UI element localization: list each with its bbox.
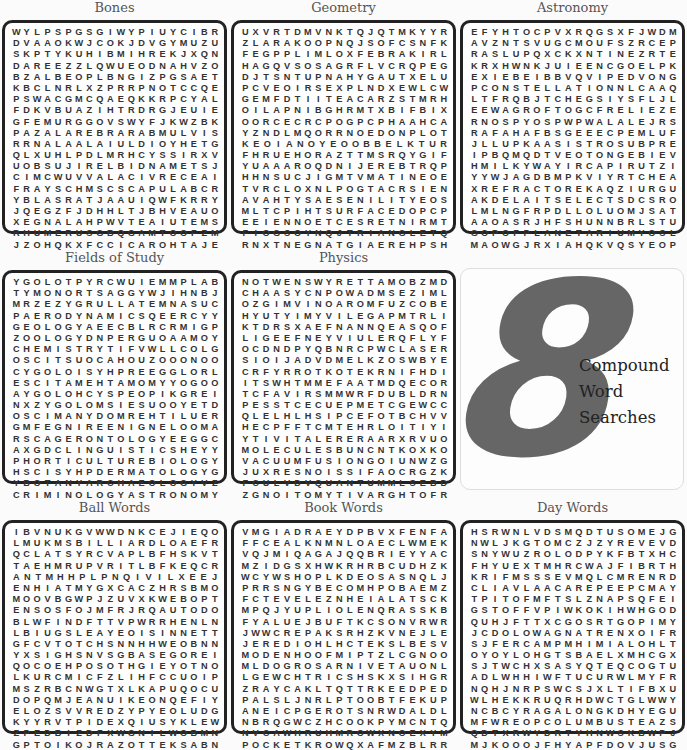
grid-letter: M [168,277,178,288]
grid-letter: O [553,717,563,728]
grid-letter: P [21,740,31,750]
grid-letter: F [32,422,42,433]
grid-letter: M [542,639,552,650]
grid-letter: H [178,139,188,150]
grid-letter: I [189,27,199,38]
grid-letter: L [116,299,126,310]
grid-letter: N [365,322,375,333]
grid-letter: Y [168,378,178,389]
grid-letter: L [282,184,292,195]
grid-letter: F [511,605,521,616]
grid-row: ZOOLOGYDNPERGUOAAMOY [11,333,220,344]
grid-letter: M [324,538,334,549]
grid-letter: C [605,572,615,583]
grid-row: JQEGZFJDHHLTJBHVEAUO [11,206,220,217]
grid-letter: P [178,277,188,288]
grid-letter: C [189,83,199,94]
grid-letter: S [615,728,625,739]
grid-letter: R [521,684,531,695]
grid-letter: B [21,83,31,94]
grid-row: IBVNUKGVWWDNKCEJIEQO [11,527,220,538]
grid-letter: S [157,150,167,161]
grid-letter: N [63,422,73,433]
grid-letter: F [365,467,375,478]
grid-letter: Y [407,195,417,206]
grid-letter: A [376,172,386,183]
grid-letter: G [74,27,84,38]
grid-letter: J [63,695,73,706]
grid-letter: T [542,195,552,206]
grid-letter: R [84,549,94,560]
grid-letter: R [657,139,667,150]
grid-letter: T [105,617,115,628]
grid-letter: J [334,228,344,239]
grid-letter: G [126,288,136,299]
grid-letter: F [490,94,500,105]
grid-letter: R [438,139,449,150]
grid-letter: B [407,740,417,750]
grid-letter: C [553,617,563,628]
grid-letter: V [626,740,636,750]
grid-letter: D [553,206,563,217]
grid-letter: O [189,594,199,605]
grid-letter: F [303,456,313,467]
grid-letter: Y [636,706,646,717]
grid-letter: S [261,400,271,411]
grid-letter: L [84,139,94,150]
grid-letter: Y [21,27,31,38]
grid-letter: X [84,83,94,94]
grid-letter: V [147,172,157,183]
grid-letter: E [84,128,94,139]
grid-letter: N [282,72,292,83]
grid-letter: O [313,467,323,478]
grid-letter: L [490,538,500,549]
grid-letter: A [189,72,199,83]
grid-row: DVAAOKWJCOKJDVGYMUZU [11,38,220,49]
grid-letter: W [157,195,167,206]
grid-letter: U [136,355,146,366]
grid-letter: S [21,684,31,695]
grid-letter: I [365,594,375,605]
grid-letter: E [647,527,657,538]
grid-letter: B [376,561,386,572]
grid-letter: E [53,61,63,72]
grid-row: HAGQVSOSAGRFLVCRQPEG [240,61,449,72]
grid-letter: A [116,128,126,139]
grid-letter: A [365,740,375,750]
grid-letter: B [542,128,552,139]
grid-letter: E [657,150,667,161]
grid-letter: T [605,195,615,206]
grid-letter: P [376,717,386,728]
grid-letter: E [383,139,394,150]
grid-letter: H [553,561,563,572]
grid-letter: E [532,83,542,94]
grid-letter: L [428,72,438,83]
grid-letter: C [334,717,344,728]
grid-letter: J [209,572,220,583]
grid-letter: W [261,628,271,639]
grid-letter: T [521,83,531,94]
grid-letter: W [313,277,323,288]
grid-letter: W [490,172,500,183]
grid-letter: U [386,299,396,310]
grid-letter: R [261,717,271,728]
grid-letter: G [136,661,146,672]
grid-letter: L [428,628,438,639]
grid-letter: H [240,61,250,72]
grid-letter: D [95,717,105,728]
grid-letter: I [490,72,500,83]
grid-letter: P [594,583,604,594]
grid-letter: K [63,740,73,750]
grid-letter: G [53,650,63,661]
grid-letter: M [199,422,209,433]
grid-letter: R [376,706,386,717]
grid-letter: P [668,38,678,49]
grid-letter: N [345,478,355,489]
grid-letter: G [324,172,334,183]
grid-letter: R [334,661,344,672]
grid-letter: J [261,549,271,560]
grid-letter: S [334,467,344,478]
grid-row: PAERODYNAMICSQEERCYY [11,311,220,322]
grid-letter: U [594,38,604,49]
grid-letter: T [345,684,355,695]
